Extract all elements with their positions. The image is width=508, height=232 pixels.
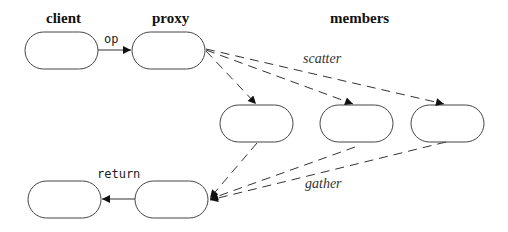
gather-arrow-2 [210, 147, 355, 199]
gather-arrow-3 [210, 142, 446, 200]
proxy-header: proxy [152, 10, 190, 26]
members-header: members [330, 10, 389, 26]
op-label: op [104, 32, 118, 46]
member-node-3 [411, 105, 484, 142]
proxy-node [132, 32, 205, 69]
scatter-arrow-1 [206, 51, 256, 104]
return-label: return [97, 167, 140, 181]
scatter-label: scatter [303, 51, 342, 66]
gather-label: gather [305, 176, 342, 191]
member-node-2 [320, 105, 393, 142]
scatter-gather-diagram: client proxy members op scatter gather r… [0, 0, 508, 232]
proxy-result-node [135, 181, 208, 218]
member-node-1 [220, 105, 293, 142]
client-header: client [46, 10, 81, 26]
client-result-node [28, 181, 101, 218]
client-node [25, 32, 98, 69]
